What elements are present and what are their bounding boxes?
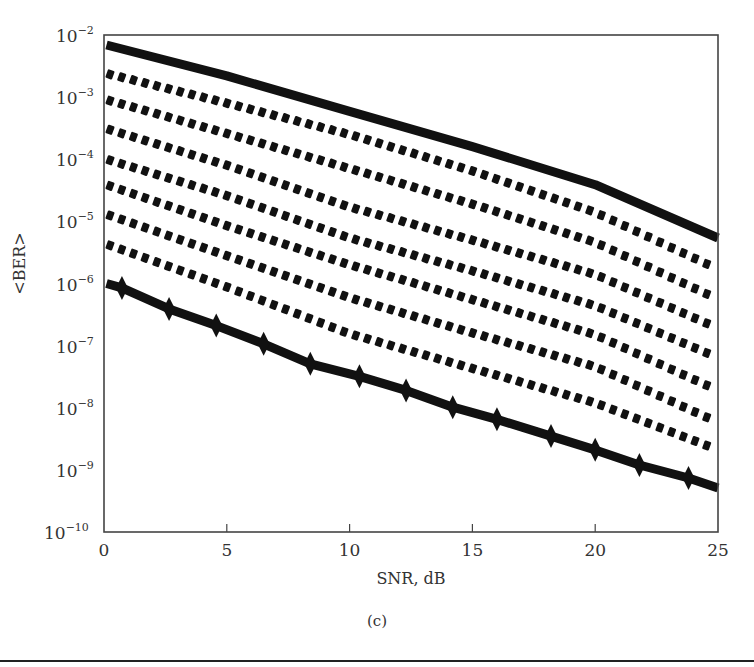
dot-segment bbox=[643, 261, 653, 272]
dot-segment bbox=[257, 232, 267, 243]
dot-segment bbox=[292, 214, 302, 225]
diamond-marker bbox=[400, 378, 412, 402]
dot-segment bbox=[515, 279, 525, 290]
dot-segment bbox=[421, 253, 431, 264]
x-tick-label: 15 bbox=[462, 540, 484, 560]
dot-segment bbox=[398, 145, 408, 156]
dot-segment bbox=[456, 360, 466, 371]
dot-segment bbox=[152, 226, 162, 237]
dot-segment bbox=[503, 337, 513, 348]
dot-segment bbox=[550, 258, 560, 269]
dot-segment bbox=[281, 304, 291, 315]
dot-segment bbox=[105, 124, 115, 135]
dot-segment bbox=[363, 297, 373, 308]
dot-segment bbox=[316, 282, 326, 293]
dot-segment bbox=[199, 92, 209, 103]
dot-segment bbox=[374, 337, 384, 348]
dot-segment bbox=[503, 275, 513, 286]
dot-segment bbox=[597, 364, 607, 375]
dot-segment bbox=[304, 188, 314, 199]
x-tick-label: 0 bbox=[99, 540, 110, 560]
dot-segment bbox=[538, 254, 548, 265]
dot-segment bbox=[222, 220, 232, 231]
dot-segment bbox=[585, 396, 595, 407]
dot-segment bbox=[222, 128, 232, 139]
dot-segment bbox=[643, 418, 653, 429]
dot-segment bbox=[246, 168, 256, 179]
dot-segment bbox=[269, 141, 279, 152]
dot-segment bbox=[363, 168, 373, 179]
dot-segment bbox=[526, 282, 536, 293]
dot-segment bbox=[643, 231, 653, 242]
dot-segment bbox=[304, 151, 314, 162]
dot-segment bbox=[444, 159, 454, 170]
dot-segment bbox=[491, 206, 501, 217]
dot-segment bbox=[515, 308, 525, 319]
x-tick-label: 5 bbox=[221, 540, 232, 560]
dot-segment bbox=[269, 176, 279, 187]
dot-segment bbox=[538, 347, 548, 358]
dot-segment bbox=[550, 350, 560, 361]
dot-segment bbox=[257, 172, 267, 183]
dot-segment bbox=[257, 262, 267, 273]
series-layer bbox=[105, 45, 718, 490]
dot-segment bbox=[292, 308, 302, 319]
dot-segment bbox=[281, 145, 291, 156]
x-axis-ticks: 0510152025 bbox=[99, 524, 729, 560]
dot-segment bbox=[105, 240, 115, 251]
dot-segment bbox=[433, 256, 443, 267]
dot-segment bbox=[702, 380, 712, 391]
dot-segment bbox=[678, 248, 688, 259]
dot-segment bbox=[409, 148, 419, 159]
dot-segment bbox=[234, 131, 244, 142]
dot-segment bbox=[597, 400, 607, 411]
dot-segment bbox=[690, 313, 700, 324]
dot-segment bbox=[643, 385, 653, 396]
dot-segment bbox=[608, 404, 618, 415]
diamond-marker bbox=[210, 314, 222, 338]
dot-segment bbox=[678, 369, 688, 380]
y-tick-label: 10−7 bbox=[56, 335, 94, 357]
dot-segment bbox=[655, 267, 665, 278]
dot-segment bbox=[480, 238, 490, 249]
dot-segment bbox=[374, 210, 384, 221]
dot-segment bbox=[608, 337, 618, 348]
dot-segment bbox=[655, 422, 665, 433]
y-tick-label: 10−10 bbox=[44, 521, 89, 543]
dot-segment bbox=[257, 138, 267, 149]
dot-segment bbox=[363, 134, 373, 145]
dot-segment bbox=[456, 162, 466, 173]
dot-segment bbox=[444, 228, 454, 239]
dot-segment bbox=[210, 95, 220, 106]
dot-segment bbox=[398, 178, 408, 189]
dot-segment bbox=[468, 265, 478, 276]
dot-segment bbox=[246, 228, 256, 239]
dot-segment bbox=[690, 342, 700, 353]
y-tick-label: 10−2 bbox=[56, 24, 94, 46]
dot-segment bbox=[620, 313, 630, 324]
dot-segment bbox=[456, 291, 466, 302]
dot-segment bbox=[468, 166, 478, 177]
dot-segment bbox=[585, 360, 595, 371]
dot-segment bbox=[608, 308, 618, 319]
dot-segment bbox=[409, 250, 419, 261]
dot-segment bbox=[175, 234, 185, 245]
dot-segment bbox=[585, 235, 595, 246]
dot-segment bbox=[386, 304, 396, 315]
dot-segment bbox=[690, 407, 700, 418]
dot-segment bbox=[152, 169, 162, 180]
dot-segment bbox=[444, 288, 454, 299]
dot-segment bbox=[585, 267, 595, 278]
x-tick-label: 10 bbox=[339, 540, 361, 560]
dot-segment bbox=[667, 302, 677, 313]
dot-segment bbox=[374, 301, 384, 312]
dot-segment bbox=[632, 256, 642, 267]
dot-segment bbox=[339, 258, 349, 269]
dot-segment bbox=[421, 281, 431, 292]
diamond-marker bbox=[633, 453, 645, 477]
diamond-marker bbox=[589, 438, 601, 462]
x-axis-label: SNR, dB bbox=[376, 569, 445, 588]
dot-segment bbox=[643, 323, 653, 334]
dot-segment bbox=[456, 324, 466, 335]
dot-segment bbox=[620, 251, 630, 262]
